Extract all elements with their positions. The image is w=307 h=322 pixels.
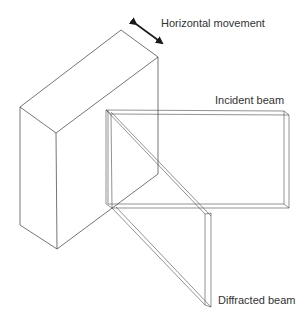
diffracted-beam-label: Diffracted beam <box>218 294 295 306</box>
block-top-face <box>20 30 158 133</box>
movement-arrow <box>136 24 162 43</box>
incident-beam <box>106 110 289 208</box>
horizontal-movement-label: Horizontal movement <box>161 17 265 29</box>
block-side-face <box>57 57 158 249</box>
diffracted-beam <box>106 110 211 307</box>
block-front-face <box>20 107 57 249</box>
diffraction-diagram: Horizontal movement Incident beam Diffra… <box>0 0 307 322</box>
incident-beam-label: Incident beam <box>215 94 284 106</box>
